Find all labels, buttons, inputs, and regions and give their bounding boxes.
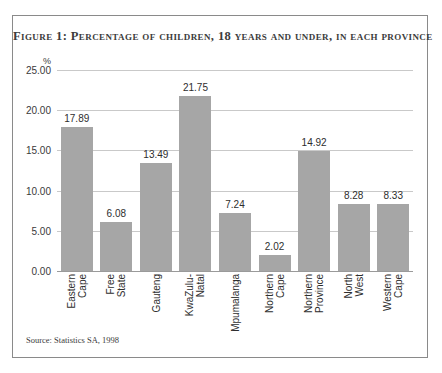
- bar[interactable]: [298, 151, 330, 271]
- x-axis-label-slot: North West: [335, 274, 373, 346]
- x-axis-tick-label: Gauteng: [150, 274, 161, 312]
- x-axis-tick-label: North West: [343, 274, 365, 298]
- x-axis-label-slot: Northern Cape: [256, 274, 294, 346]
- bar-value-label: 8.28: [344, 190, 363, 201]
- y-axis-tick-label: 10.00: [26, 185, 51, 196]
- x-axis-label-slot: Western Cape: [374, 274, 412, 346]
- bar[interactable]: [338, 204, 370, 271]
- y-axis-tick-label: 15.00: [26, 145, 51, 156]
- bar-slot: 8.28: [335, 70, 373, 271]
- chart-title: Figure 1: Percentage of children, 18 yea…: [13, 29, 427, 44]
- bar[interactable]: [61, 127, 93, 271]
- bar-slot: 7.24: [216, 70, 254, 271]
- bar-slot: 17.89: [58, 70, 96, 271]
- bar-value-label: 8.33: [383, 190, 402, 201]
- x-axis-label-slot: KwaZulu- Natal: [176, 274, 214, 346]
- x-axis-label-slot: Mpumalanga: [216, 274, 254, 346]
- source-note: Source: Statistics SA, 1998: [26, 335, 119, 345]
- x-axis-label-slot: Gauteng: [137, 274, 175, 346]
- bar-value-label: 13.49: [143, 149, 168, 160]
- x-axis-tick-label: Western Cape: [382, 274, 404, 311]
- x-axis-tick-label: Northern Cape: [264, 274, 286, 313]
- y-axis-tick-label: 5.00: [32, 225, 51, 236]
- figure-frame: Figure 1: Percentage of children, 18 yea…: [12, 15, 428, 358]
- x-axis-tick-label: KwaZulu- Natal: [184, 274, 206, 316]
- x-axis-tick-label: Northern Province: [303, 274, 325, 313]
- bar-slot: 21.75: [176, 70, 214, 271]
- bar[interactable]: [100, 222, 132, 271]
- bar-slot: 8.33: [374, 70, 412, 271]
- bar[interactable]: [179, 96, 211, 271]
- bar-value-label: 14.92: [302, 137, 327, 148]
- bar-slot: 6.08: [97, 70, 135, 271]
- plot-area: 25.0020.0015.0010.005.000.00 17.896.0813…: [57, 70, 413, 271]
- bar[interactable]: [377, 204, 409, 271]
- x-axis-tick-label: Free State: [105, 274, 127, 297]
- bar[interactable]: [259, 255, 291, 271]
- bar-slot: 14.92: [295, 70, 333, 271]
- bar-value-label: 6.08: [107, 208, 126, 219]
- bar-value-label: 21.75: [183, 82, 208, 93]
- bar[interactable]: [140, 163, 172, 271]
- x-axis-label-slot: Northern Province: [295, 274, 333, 346]
- bar-slot: 13.49: [137, 70, 175, 271]
- bar-value-label: 17.89: [64, 113, 89, 124]
- y-axis-tick-label: 20.00: [26, 105, 51, 116]
- bar[interactable]: [219, 213, 251, 271]
- x-axis-tick-label: Mpumalanga: [230, 274, 241, 332]
- bar-value-label: 2.02: [265, 241, 284, 252]
- bars-layer: 17.896.0813.4921.757.242.0214.928.288.33: [57, 70, 413, 271]
- axis-baseline: 0.00: [57, 271, 413, 272]
- y-axis-tick-label: 0.00: [32, 266, 51, 277]
- y-axis-tick-label: 25.00: [26, 65, 51, 76]
- bar-slot: 2.02: [256, 70, 294, 271]
- bar-value-label: 7.24: [225, 199, 244, 210]
- x-axis-tick-label: Eastern Cape: [66, 274, 88, 308]
